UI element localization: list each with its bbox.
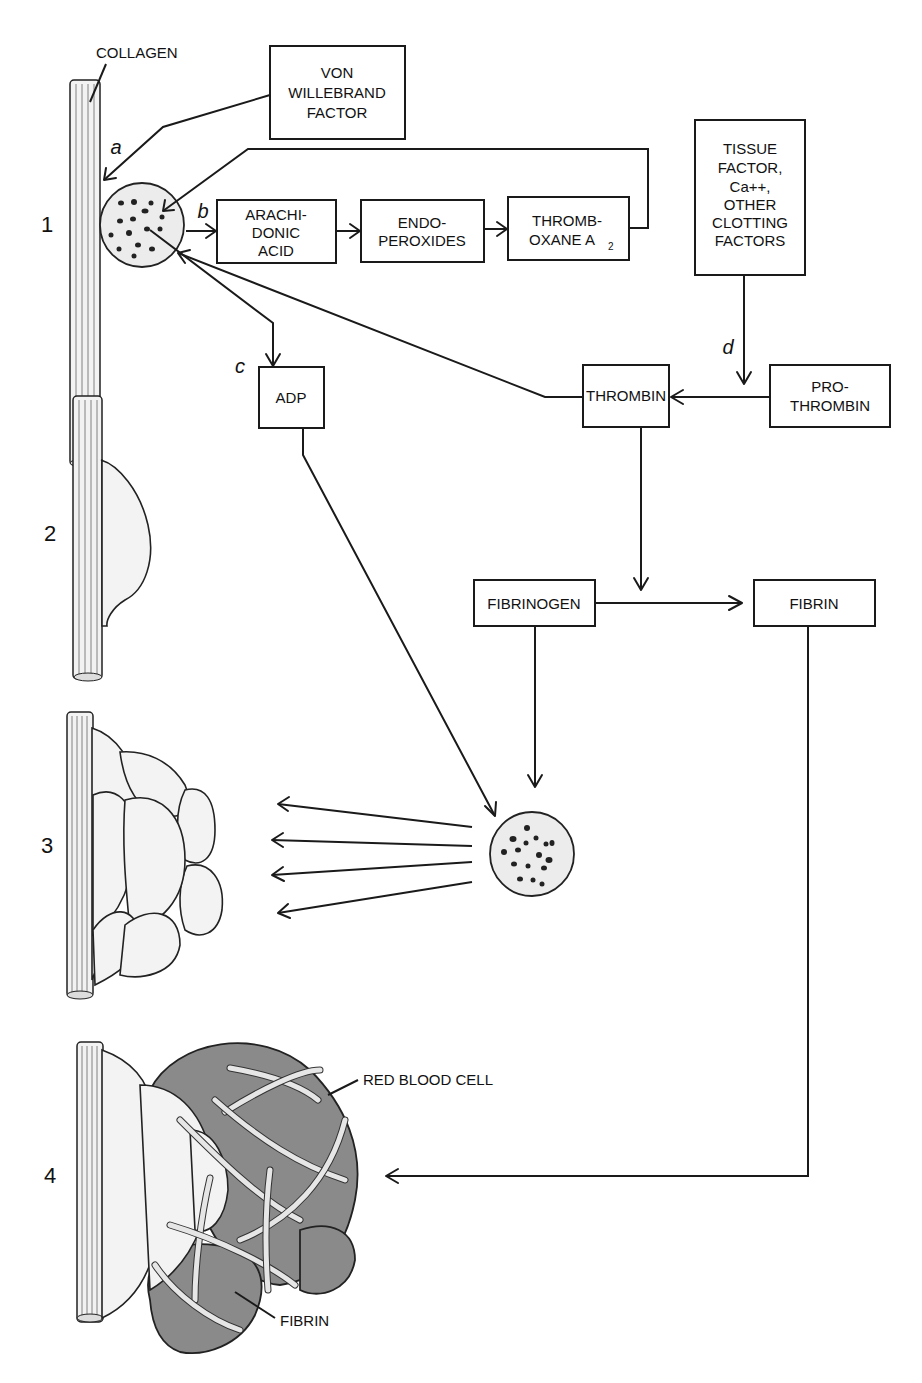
svg-text:ARACHI-: ARACHI- [245, 206, 307, 223]
svg-text:PRO-: PRO- [811, 378, 849, 395]
svg-text:Ca++,: Ca++, [730, 178, 771, 195]
platelet-aggregate-stage3 [92, 728, 222, 985]
svg-text:THROMBIN: THROMBIN [790, 397, 870, 414]
svg-text:VON: VON [321, 64, 354, 81]
svg-text:THROMB-: THROMB- [532, 212, 602, 229]
red-blood-cell-label: RED BLOOD CELL [363, 1071, 493, 1088]
svg-text:ENDO-: ENDO- [398, 214, 446, 231]
arrow-thrombin-to-conversion [634, 427, 648, 590]
svg-text:ACID: ACID [258, 242, 294, 259]
svg-text:2: 2 [608, 241, 614, 252]
svg-text:FACTOR,: FACTOR, [718, 159, 783, 176]
stage-number-4: 4 [44, 1163, 56, 1188]
arrow-b-platelet-to-arachidonic [186, 224, 216, 238]
clot-stage4 [102, 1043, 358, 1353]
svg-text:THROMBIN: THROMBIN [586, 387, 666, 404]
step-letter-c: c [235, 355, 245, 377]
stage-number-3: 3 [41, 833, 53, 858]
svg-text:FACTORS: FACTORS [715, 232, 786, 249]
fibrin-strand-label: FIBRIN [280, 1312, 329, 1329]
svg-text:FIBRIN: FIBRIN [789, 595, 838, 612]
stage-number-2: 2 [44, 521, 56, 546]
box-von-willebrand-factor: VON WILLEBRAND FACTOR [270, 46, 405, 139]
svg-text:FIBRINOGEN: FIBRINOGEN [487, 595, 580, 612]
svg-text:ADP: ADP [276, 389, 307, 406]
platelet-stage1 [100, 183, 184, 267]
arrow-prothrombin-to-thrombin [671, 390, 770, 404]
collagen-fiber-stage2 [73, 396, 102, 681]
platelet-coagulation-diagram: 1 2 3 4 a b c d COLLAGEN VON [0, 0, 922, 1383]
step-letter-a: a [110, 136, 121, 158]
arrow-fibrin-to-clot [386, 626, 808, 1183]
box-thromboxane-a2: THROMB- OXANE A 2 [508, 197, 629, 260]
collagen-fiber-stage3 [67, 712, 93, 999]
svg-text:TISSUE: TISSUE [723, 140, 777, 157]
step-letter-b: b [197, 200, 208, 222]
svg-text:OTHER: OTHER [724, 196, 777, 213]
arrow-arachidonic-to-endoperoxides [336, 224, 360, 238]
svg-text:FACTOR: FACTOR [307, 104, 368, 121]
box-adp: ADP [259, 367, 324, 428]
svg-text:DONIC: DONIC [252, 224, 301, 241]
box-tissue-factor: TISSUE FACTOR, Ca++, OTHER CLOTTING FACT… [695, 120, 805, 275]
svg-text:PEROXIDES: PEROXIDES [378, 232, 466, 249]
collagen-fiber-stage4 [77, 1042, 103, 1322]
arrow-fibrinogen-to-fibrin [595, 596, 742, 610]
step-letter-d: d [722, 336, 734, 358]
collagen-label: COLLAGEN [96, 44, 178, 61]
box-arachidonic-acid: ARACHI- DONIC ACID [217, 200, 336, 263]
arrow-a-von-willebrand [104, 95, 270, 180]
platelet-spreading-stage2 [101, 460, 151, 626]
svg-text:WILLEBRAND: WILLEBRAND [288, 84, 386, 101]
box-fibrinogen: FIBRINOGEN [474, 580, 595, 626]
box-thrombin: THROMBIN [583, 365, 669, 427]
arrows-platelet-to-aggregate [272, 797, 472, 918]
platelet-activated-center [490, 812, 574, 896]
red-blood-cell-leader [328, 1080, 358, 1095]
arrow-adp-to-platelet [303, 428, 496, 816]
box-endoperoxides: ENDO- PEROXIDES [361, 200, 484, 262]
arrow-endoperoxides-to-thromboxane [484, 222, 507, 236]
arrow-fibrinogen-to-platelet [528, 626, 542, 787]
stage-number-1: 1 [41, 212, 53, 237]
arrow-d-tissue-factor [737, 275, 751, 384]
svg-text:CLOTTING: CLOTTING [712, 214, 788, 231]
box-fibrin: FIBRIN [754, 580, 875, 626]
box-prothrombin: PRO- THROMBIN [770, 365, 890, 427]
svg-text:OXANE A: OXANE A [529, 231, 595, 248]
